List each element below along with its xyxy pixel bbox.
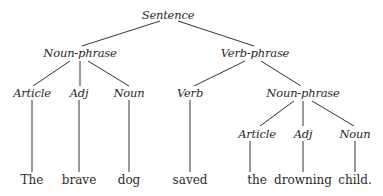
edge-np1-n1: [88, 61, 129, 86]
node-adj-subject: Adj: [70, 86, 89, 100]
word-drowning: drowning: [274, 173, 332, 187]
edge-vp-v: [194, 61, 245, 86]
edge-np2-n2: [312, 101, 354, 126]
edge-s-vp: [178, 21, 254, 46]
word-dog: dog: [118, 173, 141, 187]
node-verb: Verb: [177, 86, 203, 100]
edge-np2-art2: [260, 101, 294, 126]
node-article-subject: Article: [13, 86, 51, 100]
node-noun-phrase-object: Noun-phrase: [266, 86, 339, 100]
word-the-object: the: [247, 173, 267, 187]
node-verb-phrase: Verb-phrase: [221, 46, 289, 60]
word-the: The: [21, 173, 44, 187]
edge-s-np1: [82, 21, 160, 46]
node-noun-phrase-subject: Noun-phrase: [43, 46, 116, 60]
parse-tree-diagram: Sentence Noun-phrase Verb-phrase Article…: [0, 0, 383, 196]
node-adj-object: Adj: [294, 127, 313, 141]
edge-vp-np2: [261, 61, 301, 86]
word-saved: saved: [173, 173, 208, 187]
word-brave: brave: [62, 173, 96, 187]
node-noun-subject: Noun: [114, 86, 145, 100]
word-child: child.: [338, 173, 372, 187]
node-noun-object: Noun: [340, 127, 371, 141]
edge-np1-art1: [33, 61, 70, 86]
node-sentence: Sentence: [142, 8, 195, 22]
node-article-object: Article: [238, 127, 276, 141]
